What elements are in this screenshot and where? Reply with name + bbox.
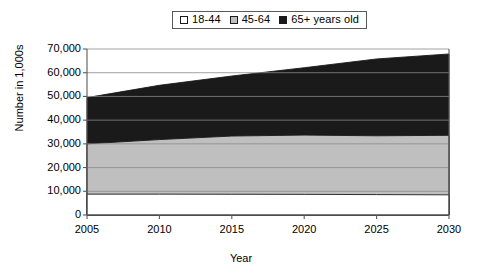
y-axis-title: Number in 1,000s — [13, 33, 25, 143]
x-tick-label-2010: 2010 — [134, 223, 184, 235]
stacked-areas — [87, 54, 449, 215]
x-tick-label-2015: 2015 — [207, 223, 257, 235]
x-tick-label-2030: 2030 — [424, 223, 474, 235]
y-tick-label-30000: 30,000 — [27, 137, 81, 149]
chart-figure: 18-44 45-64 65+ years old 010,00020,0003… — [0, 0, 482, 277]
x-tick-label-2005: 2005 — [62, 223, 112, 235]
x-axis-title: Year — [0, 252, 482, 264]
y-tick-label-60000: 60,000 — [27, 66, 81, 78]
y-tick-label-40000: 40,000 — [27, 113, 81, 125]
y-tick-label-0: 0 — [27, 208, 81, 220]
y-tick-label-50000: 50,000 — [27, 89, 81, 101]
y-tick-label-70000: 70,000 — [27, 42, 81, 54]
x-tick-label-2020: 2020 — [279, 223, 329, 235]
y-tick-label-20000: 20,000 — [27, 161, 81, 173]
area-series-0 — [87, 194, 449, 215]
x-tick-label-2025: 2025 — [352, 223, 402, 235]
y-tick-label-10000: 10,000 — [27, 184, 81, 196]
